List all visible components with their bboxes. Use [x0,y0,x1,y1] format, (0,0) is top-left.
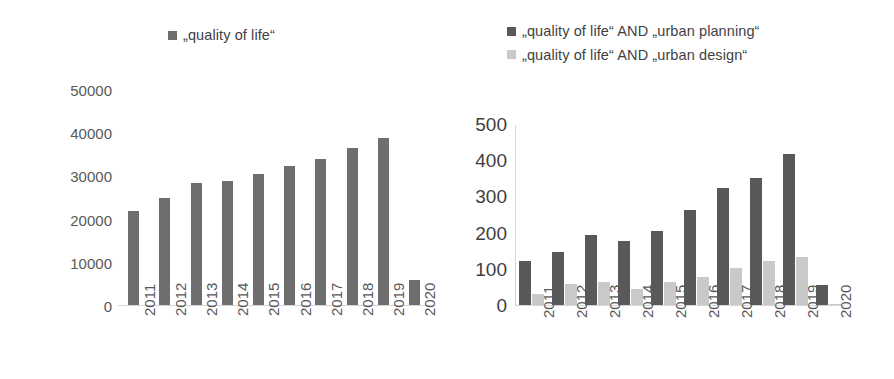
bar [191,183,202,306]
x-tick-label: 2012 [172,283,189,316]
x-tick-label: 2014 [639,285,656,318]
bar [347,148,358,306]
legend-item-label: „quality of life“ AND „urban planning“ [522,24,760,39]
x-tick-label: 2012 [573,285,590,318]
bar [519,261,531,306]
x-tick-label: 2019 [390,283,407,316]
y-tick-label: 40000 [70,125,112,142]
chart-quality-of-life-combinations: „quality of life“ AND „urban planning“ „… [447,0,894,379]
bar [378,138,389,306]
bar [128,211,139,306]
x-tick-label: 2016 [705,285,722,318]
x-tick-label: 2015 [672,285,689,318]
bars-right [515,125,845,306]
y-tick-label: 30000 [70,168,112,185]
legend-item: „quality of life“ AND „urban planning“ [507,24,760,39]
x-tick-label: 2015 [265,283,282,316]
legend-item-label: „quality of life“ AND „urban design“ [522,48,747,63]
y-tick-label: 300 [475,186,507,208]
chart-quality-of-life: „quality of life“ 0100002000030000400005… [0,0,447,379]
x-tick-label: 2020 [421,283,438,316]
x-tick-label: 2013 [606,285,623,318]
x-tick-label: 2016 [297,283,314,316]
legend-item: „quality of life“ AND „urban design“ [507,48,760,63]
y-axis-left: 01000020000300004000050000 [8,90,112,306]
bar [222,181,233,306]
plot-area-right: 0100200300400500 20112012201320142015201… [515,125,845,306]
y-axis-right: 0100200300400500 [447,125,507,306]
y-tick-label: 0 [496,295,507,317]
x-tick-label: 2017 [738,285,755,318]
y-tick-label: 100 [475,259,507,281]
y-tick-label: 200 [475,223,507,245]
y-tick-label: 400 [475,150,507,172]
figure-two-bar-charts: „quality of life“ 0100002000030000400005… [0,0,894,379]
x-tick-label: 2018 [359,283,376,316]
x-tick-label: 2011 [540,286,557,318]
x-tick-label: 2020 [837,285,854,318]
x-tick-label: 2011 [141,284,158,316]
x-tick-label: 2014 [234,283,251,316]
bar [159,198,170,306]
plot-area-left: 01000020000300004000050000 2011201220132… [118,90,430,306]
bar [315,159,326,306]
bar [253,174,264,306]
legend-swatch-icon [507,50,516,59]
legend-right: „quality of life“ AND „urban planning“ „… [507,24,760,71]
bar [783,154,795,306]
y-tick-label: 50000 [70,82,112,99]
y-tick-label: 20000 [70,211,112,228]
bar [409,280,420,306]
y-tick-label: 0 [104,298,112,315]
legend-swatch-icon [507,27,516,36]
y-tick-label: 500 [475,114,507,136]
bar [284,166,295,306]
legend-item: „quality of life“ [168,28,275,43]
x-tick-label: 2018 [771,285,788,318]
legend-swatch-icon [168,31,177,40]
x-tick-label: 2013 [203,283,220,316]
legend-item-label: „quality of life“ [183,28,275,43]
y-tick-label: 10000 [70,254,112,271]
x-tick-label: 2017 [328,283,345,316]
bars-left [118,90,430,306]
legend-left: „quality of life“ [168,28,275,52]
x-tick-label: 2019 [804,285,821,318]
